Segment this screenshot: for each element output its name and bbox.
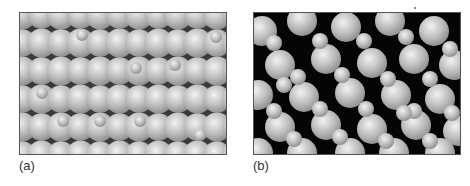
panel-a-ordered-packing xyxy=(19,12,227,155)
large-sphere xyxy=(399,44,429,74)
small-sphere xyxy=(444,105,460,121)
small-sphere xyxy=(194,129,206,141)
small-sphere xyxy=(332,129,348,145)
small-sphere xyxy=(130,62,142,74)
small-sphere xyxy=(134,115,146,127)
small-sphere xyxy=(36,87,48,99)
small-sphere xyxy=(422,71,438,87)
small-sphere xyxy=(286,131,302,147)
panel-a-label: (a) xyxy=(19,158,35,173)
small-sphere xyxy=(276,77,292,93)
small-sphere xyxy=(442,41,458,57)
small-sphere xyxy=(380,71,396,87)
large-sphere xyxy=(287,13,317,36)
small-sphere xyxy=(266,103,282,119)
small-sphere xyxy=(378,133,394,149)
large-sphere xyxy=(254,138,273,154)
small-sphere xyxy=(334,67,350,83)
small-sphere xyxy=(396,105,412,121)
large-sphere xyxy=(419,16,449,46)
panel-b-disordered-packing xyxy=(253,12,461,155)
small-sphere xyxy=(76,29,88,41)
small-sphere xyxy=(312,33,328,49)
small-sphere xyxy=(398,29,414,45)
large-sphere xyxy=(203,13,227,30)
stray-mark xyxy=(414,7,416,9)
small-sphere xyxy=(422,133,438,149)
small-sphere xyxy=(290,69,306,85)
small-sphere xyxy=(266,35,282,51)
small-sphere xyxy=(312,101,328,117)
small-sphere xyxy=(57,115,69,127)
sphere-packing-a xyxy=(20,13,226,154)
small-sphere xyxy=(94,115,106,127)
small-sphere xyxy=(358,101,374,117)
large-sphere xyxy=(331,13,361,42)
small-sphere xyxy=(169,59,181,71)
panel-b-label: (b) xyxy=(253,158,269,173)
small-sphere xyxy=(210,31,222,43)
small-sphere xyxy=(356,33,372,49)
sphere-packing-b xyxy=(254,13,460,154)
